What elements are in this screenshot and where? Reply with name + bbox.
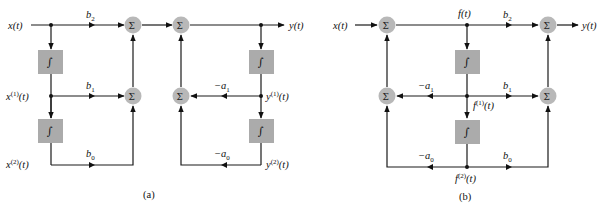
sigma-icon: Σ — [129, 92, 135, 102]
signal-a-y1: y(1)(t) — [265, 90, 289, 103]
signal-b-f2: f(2)(t) — [455, 172, 477, 185]
block-diagram-canvas: x(t) b2 ∫ x(1)(t) b1 ∫ x(2)(t) b0 — [0, 0, 611, 209]
panel-b-caption: (b) — [459, 191, 472, 203]
summer-a3: Σ — [173, 17, 190, 34]
integral-icon: ∫ — [258, 56, 264, 69]
summer-b2: Σ — [379, 88, 396, 105]
signal-a-x2: x(2)(t) — [5, 158, 29, 171]
sigma-icon: Σ — [177, 92, 183, 102]
integrator-a3: ∫ — [249, 50, 274, 74]
sigma-icon: Σ — [544, 92, 550, 102]
gain-a-a1: −a1 — [214, 80, 230, 94]
gain-b-a0: −a0 — [418, 150, 434, 164]
sigma-icon: Σ — [129, 21, 135, 31]
summer-a2: Σ — [125, 88, 142, 105]
gain-b-b1: b1 — [503, 80, 512, 94]
signal-a-y2: y(2)(t) — [265, 158, 289, 171]
panel-a-input-label: x(t) — [7, 20, 23, 32]
panel-a: x(t) b2 ∫ x(1)(t) b1 ∫ x(2)(t) b0 — [5, 9, 304, 201]
integrator-a1: ∫ — [38, 50, 63, 74]
signal-b-f: f(t) — [458, 8, 471, 20]
summer-a1: Σ — [125, 17, 142, 34]
gain-a-b1: b1 — [86, 80, 95, 94]
gain-a-b0: b0 — [86, 148, 95, 162]
panel-b-input-label: x(t) — [332, 20, 348, 32]
arrow-b-a0-icon — [427, 164, 433, 170]
signal-a-x1: x(1)(t) — [5, 90, 29, 103]
integral-icon: ∫ — [464, 126, 470, 139]
integral-icon: ∫ — [47, 56, 53, 69]
summer-a4: Σ — [173, 88, 190, 105]
sigma-icon: Σ — [544, 21, 550, 31]
summer-b3: Σ — [540, 17, 557, 34]
integrator-a4: ∫ — [249, 119, 274, 143]
gain-b-a1: −a1 — [418, 80, 434, 94]
sigma-icon: Σ — [177, 21, 183, 31]
arrow-a0-icon — [221, 162, 227, 168]
arrow-b-b0-icon — [506, 164, 512, 170]
integrator-a2: ∫ — [38, 119, 63, 143]
summer-b1: Σ — [379, 17, 396, 34]
sigma-icon: Σ — [383, 21, 389, 31]
integrator-b1: ∫ — [455, 50, 480, 74]
summer-b4: Σ — [540, 88, 557, 105]
sigma-icon: Σ — [383, 92, 389, 102]
panel-b: x(t) Σ Σ f(t) b2 ∫ f(1)(t) −a1 — [332, 8, 597, 203]
gain-b-b0: b0 — [503, 150, 512, 164]
gain-b-b2: b2 — [503, 9, 512, 23]
integral-icon: ∫ — [47, 125, 53, 138]
integral-icon: ∫ — [464, 56, 470, 69]
gain-a-b2: b2 — [86, 9, 95, 23]
signal-b-f1: f(1)(t) — [473, 99, 495, 112]
panel-a-output-label: y(t) — [288, 20, 304, 32]
panel-b-output-label: y(t) — [581, 20, 597, 32]
arrow-b0-icon — [89, 162, 95, 168]
integrator-b2: ∫ — [455, 120, 480, 144]
integral-icon: ∫ — [258, 125, 264, 138]
panel-a-caption: (a) — [143, 189, 155, 201]
gain-a-a0: −a0 — [214, 148, 230, 162]
